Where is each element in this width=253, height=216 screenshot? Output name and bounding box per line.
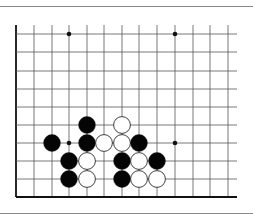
white-stone xyxy=(96,135,113,152)
star-point-icon xyxy=(67,32,72,37)
black-stone xyxy=(79,117,96,134)
go-board xyxy=(0,0,253,216)
white-stone xyxy=(114,117,131,134)
board-grid xyxy=(16,25,237,197)
black-stone xyxy=(131,135,148,152)
star-point-icon xyxy=(173,32,178,37)
black-stone xyxy=(61,171,78,188)
star-point-icon xyxy=(67,141,72,146)
white-stone xyxy=(114,135,131,152)
black-stone xyxy=(44,135,61,152)
black-stone xyxy=(114,153,131,170)
white-stone xyxy=(149,171,166,188)
white-stone xyxy=(131,153,148,170)
black-stone xyxy=(114,171,131,188)
black-stone xyxy=(61,153,78,170)
stones xyxy=(44,117,166,188)
black-stone xyxy=(79,135,96,152)
white-stone xyxy=(79,153,96,170)
bottom-separator xyxy=(0,213,253,214)
white-stone xyxy=(79,171,96,188)
star-point-icon xyxy=(173,141,178,146)
white-stone xyxy=(131,171,148,188)
black-stone xyxy=(149,153,166,170)
